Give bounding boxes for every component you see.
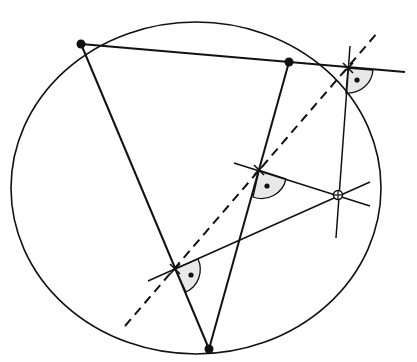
side-ab-extended: [81, 44, 405, 72]
diagram-canvas: [0, 0, 417, 362]
simson-line-diagram: [0, 0, 417, 362]
point-p: [334, 191, 343, 200]
circumcircle: [11, 22, 381, 354]
vertex-a: [77, 40, 86, 49]
vertex-b: [285, 58, 294, 67]
side-bc: [209, 62, 289, 349]
vertex-c: [205, 345, 214, 354]
right-angle-marker-ab: [346, 68, 373, 93]
perpendicular-to-ab: [336, 46, 350, 238]
